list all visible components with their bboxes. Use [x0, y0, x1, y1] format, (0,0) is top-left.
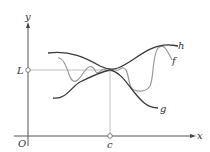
- curve-h: [48, 45, 178, 69]
- x-axis-label: x: [197, 130, 203, 141]
- limit-L-label: L: [16, 65, 24, 76]
- y-axis-arrow-icon: [26, 22, 30, 28]
- curve-g: [53, 70, 158, 108]
- graph-canvas: y x O L c h f g: [0, 0, 210, 152]
- curve-f-label: f: [171, 55, 178, 66]
- c-label: c: [107, 139, 113, 150]
- point-cL-marker: [109, 69, 111, 71]
- y-axis-label: y: [24, 11, 31, 22]
- x-axis-arrow-icon: [190, 134, 196, 138]
- curve-g-label: g: [160, 103, 166, 114]
- squeeze-theorem-figure: y x O L c h f g: [0, 0, 210, 152]
- point-L-marker: [26, 68, 31, 73]
- curve-h-label: h: [178, 40, 184, 51]
- point-c-marker: [108, 134, 113, 139]
- origin-label: O: [18, 138, 26, 149]
